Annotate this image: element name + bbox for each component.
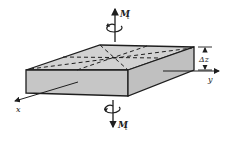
plate-front-face [26, 70, 128, 96]
thickness-label: Δz [198, 55, 210, 64]
y-axis-label: y [207, 75, 213, 84]
bottom-moment-arrow: M t [104, 100, 129, 131]
plate-diagram: M t x y Δz M t [0, 0, 229, 144]
top-moment-arrow: M t [106, 9, 131, 42]
x-axis-label: x [16, 105, 21, 114]
